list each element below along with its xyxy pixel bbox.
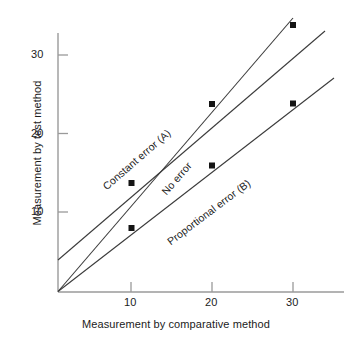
y-axis-title-wrapper: Measurement by test method [27,43,45,263]
chart-figure: 30 20 10 10 20 30 Measurement by compara… [0,0,352,343]
x-axis-title: Measurement by comparative method [0,318,352,330]
data-point-marker [129,225,135,231]
x-tick-label-30: 30 [286,296,299,308]
data-point-marker [209,101,215,107]
y-axis-title: Measurement by test method [31,80,43,225]
x-tick-label-10: 10 [124,296,137,308]
data-point-marker [290,22,296,28]
data-point-marker [129,180,135,186]
data-point-marker [209,163,215,169]
series-line-proportional-error [58,78,334,292]
data-point-marker [290,101,296,107]
series-line-no-error [58,18,293,292]
x-tick-label-20: 20 [205,296,218,308]
